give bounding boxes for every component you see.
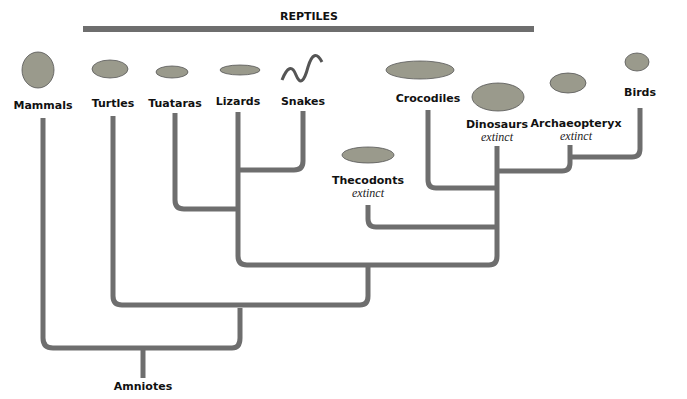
archaeopteryx-illustration <box>550 73 586 93</box>
snake-illustration <box>282 56 322 81</box>
root-amniotes: Amniotes <box>114 380 172 393</box>
extinct-tag: extinct <box>332 187 404 200</box>
extinct-tag: extinct <box>530 130 621 143</box>
crocodile-illustration <box>386 61 454 79</box>
taxon-lizards: Lizards <box>216 95 260 108</box>
taxon-thecodonts: Thecodontsextinct <box>332 174 404 200</box>
thecodont-illustration <box>342 147 394 163</box>
taxon-birds: Birds <box>624 86 656 99</box>
turtle-illustration <box>92 60 128 78</box>
bird-illustration <box>625 53 649 71</box>
cladogram: REPTILES Mammals Turtles Tuataras Lizard… <box>0 0 687 399</box>
extinct-tag: extinct <box>466 131 528 144</box>
taxon-dinosaurs: Dinosaursextinct <box>466 118 528 144</box>
taxon-tuataras: Tuataras <box>148 97 202 110</box>
tuatara-illustration <box>156 66 188 78</box>
lizard-illustration <box>220 65 260 75</box>
mammal-illustration <box>22 52 54 88</box>
taxon-crocodiles: Crocodiles <box>396 92 461 105</box>
taxon-mammals: Mammals <box>13 99 72 112</box>
taxon-turtles: Turtles <box>92 97 135 110</box>
taxon-archaeopteryx: Archaeopteryxextinct <box>530 117 621 143</box>
reptiles-label: REPTILES <box>280 10 338 23</box>
taxon-snakes: Snakes <box>281 95 325 108</box>
dinosaur-illustration <box>472 83 524 111</box>
